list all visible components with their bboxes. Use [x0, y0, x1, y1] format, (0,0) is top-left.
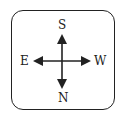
label-top: S [58, 19, 66, 31]
label-bottom: N [58, 92, 69, 104]
label-right: W [94, 55, 106, 67]
label-left: E [20, 55, 29, 67]
